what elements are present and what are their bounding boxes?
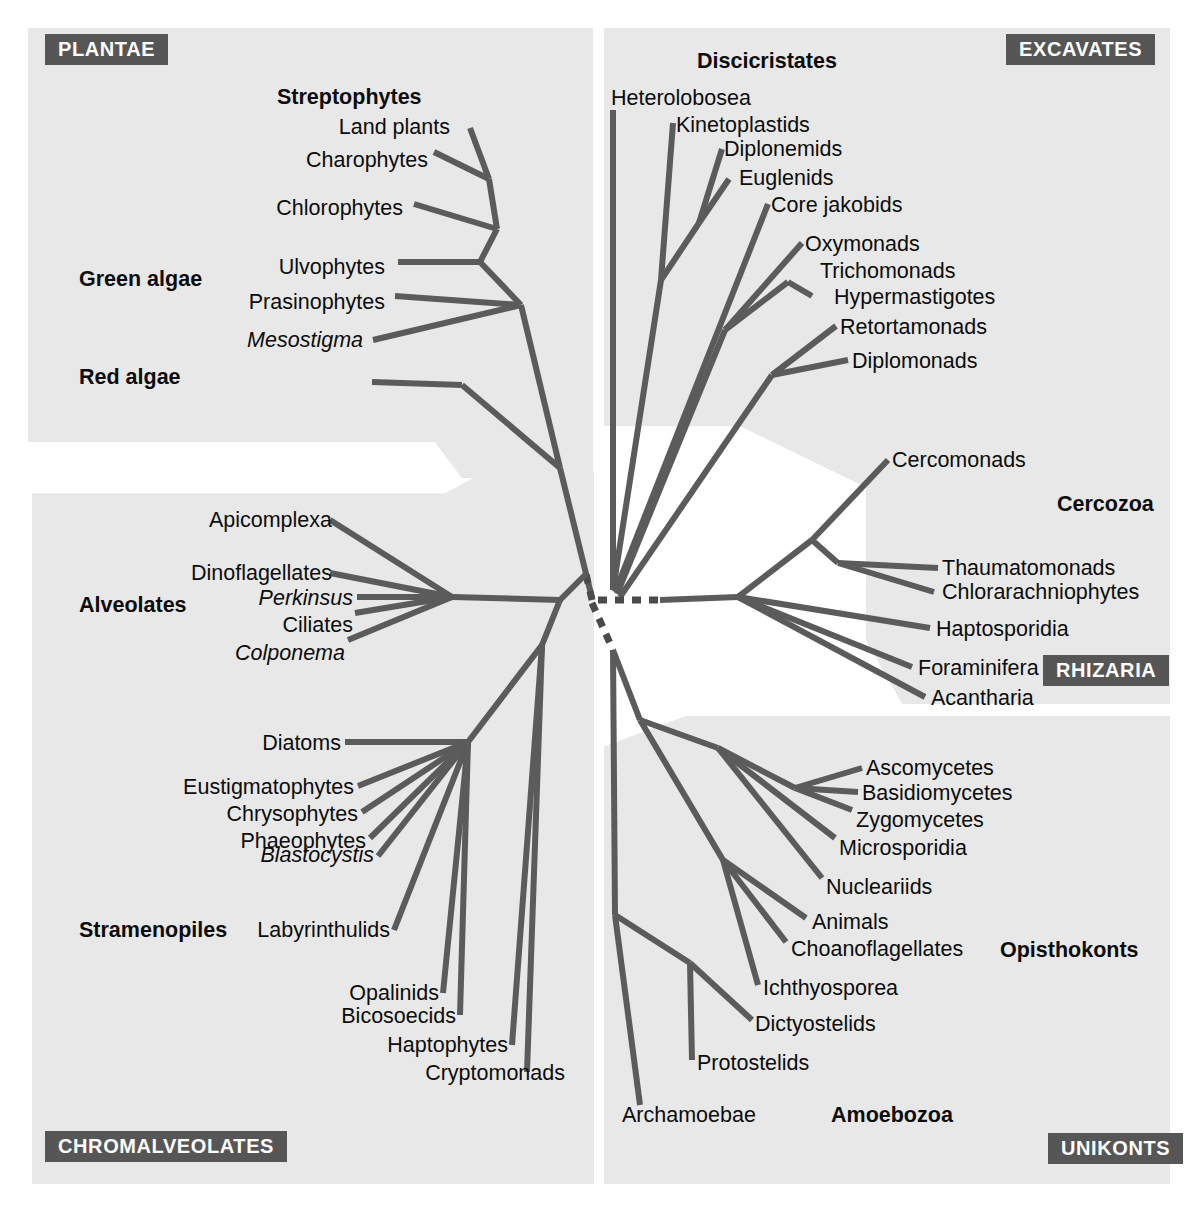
taxon-label-cercomonads: Cercomonads (892, 450, 1026, 472)
group-label-discicristates: Discicristates (697, 51, 837, 73)
taxon-label-dictyostelids: Dictyostelids (755, 1014, 876, 1036)
group-label-amoebozoa: Amoebozoa (831, 1105, 953, 1127)
chip-rhizaria: RHIZARIA (1043, 655, 1169, 686)
figure-canvas: PLANTAE EXCAVATES RHIZARIA CHROMALVEOLAT… (0, 0, 1198, 1226)
taxon-label-bicosoecids: Bicosoecids (341, 1006, 456, 1028)
taxon-label-basidiomycetes: Basidiomycetes (862, 783, 1013, 805)
chip-chromalveolates: CHROMALVEOLATES (45, 1131, 287, 1162)
taxon-label-cryptomonads: Cryptomonads (425, 1063, 565, 1085)
taxon-label-haptosporidia: Haptosporidia (936, 619, 1069, 641)
group-label-green-algae: Green algae (79, 269, 202, 291)
taxon-label-dinoflagellates: Dinoflagellates (191, 563, 332, 585)
chip-plantae: PLANTAE (45, 34, 168, 65)
taxon-label-acantharia: Acantharia (931, 688, 1034, 710)
taxon-label-colponema: Colponema (235, 643, 345, 665)
taxon-label-apicomplexa: Apicomplexa (209, 510, 332, 532)
taxon-label-microsporidia: Microsporidia (839, 838, 967, 860)
group-label-opisthokonts: Opisthokonts (1000, 940, 1139, 962)
taxon-label-nucleariids: Nucleariids (826, 877, 932, 899)
taxon-label-heterolobosea: Heterolobosea (611, 88, 751, 110)
taxon-label-protostelids: Protostelids (697, 1053, 809, 1075)
taxon-label-ulvophytes: Ulvophytes (279, 257, 385, 279)
taxon-label-opalinids: Opalinids (349, 983, 439, 1005)
chip-excavates: EXCAVATES (1006, 34, 1155, 65)
taxon-label-zygomycetes: Zygomycetes (856, 810, 984, 832)
chip-unikonts: UNIKONTS (1048, 1133, 1183, 1164)
taxon-label-core-jakobids: Core jakobids (771, 195, 902, 217)
taxon-label-blastocystis: Blastocystis (260, 845, 374, 867)
taxon-label-haptophytes: Haptophytes (387, 1035, 508, 1057)
taxon-label-ciliates: Ciliates (283, 615, 354, 637)
taxon-label-perkinsus: Perkinsus (259, 588, 353, 610)
taxon-label-euglenids: Euglenids (739, 168, 833, 190)
taxon-label-trichomonads: Trichomonads (820, 261, 955, 283)
taxon-label-retortamonads: Retortamonads (840, 317, 987, 339)
taxon-label-foraminifera: Foraminifera (918, 658, 1039, 680)
taxon-label-labyrinthulids: Labyrinthulids (257, 920, 390, 942)
group-label-streptophytes: Streptophytes (277, 87, 422, 109)
taxon-label-thaumatomonads: Thaumatomonads (942, 558, 1115, 580)
taxon-label-choanoflagellates: Choanoflagellates (791, 939, 963, 961)
group-label-red-algae: Red algae (79, 367, 181, 389)
taxon-label-chlorophytes: Chlorophytes (276, 198, 403, 220)
taxon-label-ichthyosporea: Ichthyosporea (763, 978, 898, 1000)
taxon-label-ascomycetes: Ascomycetes (866, 758, 994, 780)
group-label-cercozoa: Cercozoa (1057, 494, 1154, 516)
group-label-alveolates: Alveolates (79, 595, 187, 617)
taxon-label-prasinophytes: Prasinophytes (249, 292, 385, 314)
taxon-label-kinetoplastids: Kinetoplastids (676, 115, 810, 137)
taxon-label-land-plants: Land plants (339, 117, 450, 139)
taxon-label-chrysophytes: Chrysophytes (227, 804, 358, 826)
taxon-label-charophytes: Charophytes (306, 150, 428, 172)
taxon-label-eustigmatophytes: Eustigmatophytes (183, 777, 354, 799)
taxon-label-diatoms: Diatoms (262, 733, 341, 755)
taxon-label-mesostigma: Mesostigma (247, 330, 363, 352)
taxon-label-diplonemids: Diplonemids (724, 139, 842, 161)
taxon-label-chlorarachniophytes: Chlorarachniophytes (942, 582, 1139, 604)
group-label-stramenopiles: Stramenopiles (79, 920, 227, 942)
taxon-label-animals: Animals (812, 912, 888, 934)
taxon-label-diplomonads: Diplomonads (852, 351, 977, 373)
taxon-label-archamoebae: Archamoebae (622, 1105, 756, 1127)
taxon-label-oxymonads: Oxymonads (805, 234, 920, 256)
taxon-label-hypermastigotes: Hypermastigotes (834, 287, 995, 309)
